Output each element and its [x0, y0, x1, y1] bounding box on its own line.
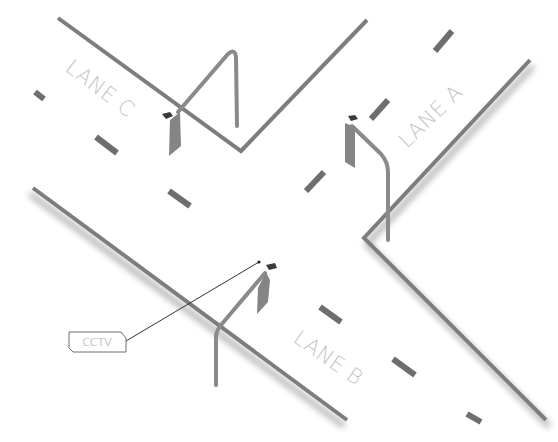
- road-edge-bottom-left: [33, 188, 347, 420]
- lane-dash: [435, 31, 452, 51]
- road-edge-right: [364, 60, 546, 420]
- cctv-pole-lane-b: [216, 263, 277, 385]
- leader-dot: [257, 260, 260, 263]
- lane-dash: [35, 92, 44, 99]
- cctv-camera-icon: [348, 115, 358, 121]
- pole: [352, 126, 388, 240]
- road-edges: [33, 18, 546, 420]
- lane-dash: [393, 359, 415, 375]
- lane-dash: [371, 100, 388, 119]
- lane-dash: [320, 307, 341, 322]
- lane-c-label: LANE C: [61, 55, 139, 122]
- lane-a-label: LANE A: [394, 80, 468, 153]
- intersection-diagram: LANE C LANE A LANE B CCTV: [0, 0, 558, 442]
- pole: [178, 52, 237, 126]
- lane-dash: [169, 191, 190, 206]
- cctv-camera-icon: [162, 112, 173, 119]
- lane-dash: [306, 172, 324, 191]
- callout-label: CCTV: [82, 336, 112, 349]
- cctv-callout: CCTV: [69, 260, 261, 352]
- sign-panel: [345, 123, 355, 168]
- lane-dash: [467, 414, 481, 422]
- cctv-camera-icon: [266, 263, 277, 270]
- lane-dash: [96, 137, 117, 153]
- lane-b-label: LANE B: [289, 325, 367, 390]
- sign-panel: [169, 112, 181, 156]
